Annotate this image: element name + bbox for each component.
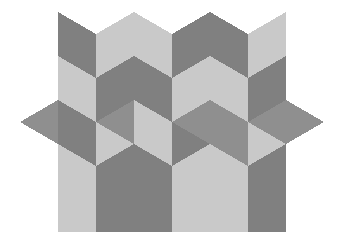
tessellation-artwork: Isometric Cube Tessellation	[0, 0, 349, 251]
facet-layer	[20, 12, 324, 232]
